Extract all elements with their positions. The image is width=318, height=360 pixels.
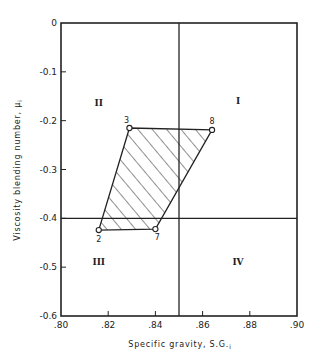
- data-point-marker: [96, 227, 101, 232]
- y-tick-label: -0.6: [39, 311, 57, 321]
- data-point-label: 8: [209, 117, 214, 126]
- x-tick-label: .88: [243, 320, 258, 330]
- hatched-polygon: [99, 128, 212, 230]
- y-axis-ticks: 0-0.1-0.2-0.3-0.4-0.5-0.6: [39, 18, 66, 321]
- x-axis-label: Specific gravity, S.G.i: [128, 340, 231, 350]
- data-point-label: 7: [155, 233, 160, 242]
- quadrant-label: II: [95, 98, 103, 108]
- x-tick-label: .90: [290, 320, 305, 330]
- x-tick-label: .84: [148, 320, 163, 330]
- data-point-marker: [127, 125, 132, 130]
- data-point-marker: [209, 127, 214, 132]
- quadrant-label: I: [236, 96, 240, 106]
- y-tick-label: 0: [51, 18, 57, 28]
- y-tick-label: -0.5: [39, 262, 57, 272]
- data-point-label: 3: [124, 116, 129, 125]
- x-tick-label: .80: [54, 320, 69, 330]
- chart: .80.82.84.86.88.90 0-0.1-0.2-0.3-0.4-0.5…: [0, 0, 318, 360]
- quadrant-label: IV: [232, 257, 244, 267]
- y-axis-label: Viscosity blending number, μi: [13, 99, 23, 240]
- x-tick-label: .82: [101, 320, 115, 330]
- y-tick-label: -0.4: [39, 213, 57, 223]
- data-point-label: 2: [96, 235, 101, 244]
- quadrant-label: III: [92, 257, 105, 267]
- x-tick-label: .86: [195, 320, 210, 330]
- y-tick-label: -0.2: [39, 116, 57, 126]
- y-tick-label: -0.1: [39, 67, 57, 77]
- y-tick-label: -0.3: [39, 165, 57, 175]
- data-point-marker: [153, 226, 158, 231]
- shaded-region: [99, 128, 212, 230]
